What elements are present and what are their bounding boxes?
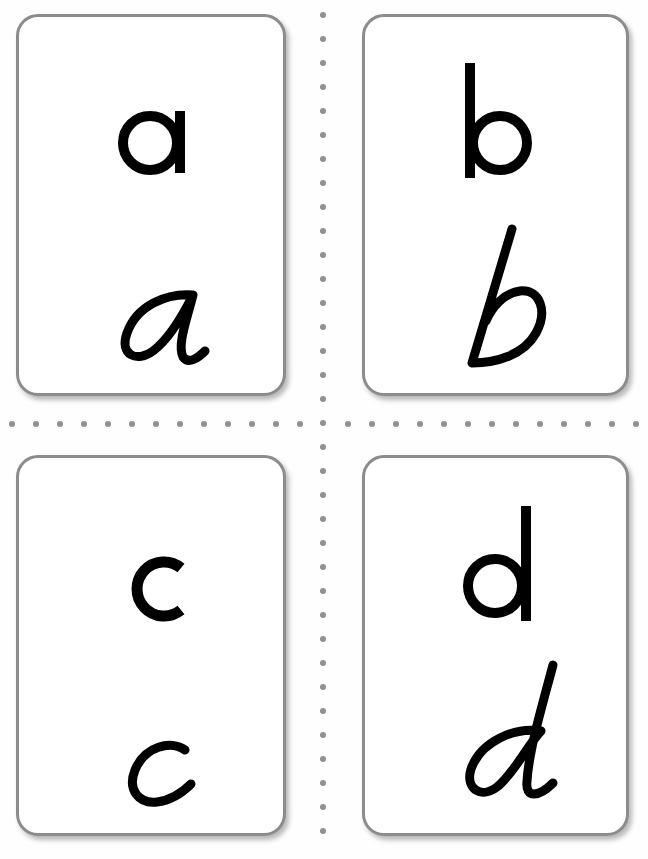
cut-guide-dot-horizontal bbox=[9, 421, 15, 427]
flash-card-c: c c bbox=[16, 455, 286, 836]
flash-card-d: d d bbox=[362, 455, 629, 836]
cut-guide-dot-vertical bbox=[320, 468, 326, 474]
cut-guide-dot-vertical bbox=[320, 420, 326, 426]
cut-guide-dot-vertical bbox=[320, 252, 326, 258]
cut-guide-dot-vertical bbox=[320, 540, 326, 546]
cut-guide-dot-vertical bbox=[320, 84, 326, 90]
cut-guide-dot-horizontal bbox=[393, 421, 399, 427]
cut-guide-dot-vertical bbox=[320, 804, 326, 810]
cut-guide-dot-vertical bbox=[320, 612, 326, 618]
cut-guide-dot-vertical bbox=[320, 372, 326, 378]
cursive-letter-c: c bbox=[119, 736, 209, 816]
cut-guide-dot-horizontal bbox=[465, 421, 471, 427]
cut-guide-dot-horizontal bbox=[609, 421, 615, 427]
cut-guide-dot-horizontal bbox=[57, 421, 63, 427]
print-letter-d: d bbox=[455, 494, 545, 624]
cut-guide-dot-vertical bbox=[320, 396, 326, 402]
print-letter-a: a bbox=[114, 97, 194, 187]
cut-guide-dot-vertical bbox=[320, 276, 326, 282]
cut-guide-dot-vertical bbox=[320, 60, 326, 66]
cut-guide-dot-vertical bbox=[320, 204, 326, 210]
cut-guide-dot-horizontal bbox=[177, 421, 183, 427]
cut-guide-dot-horizontal bbox=[33, 421, 39, 427]
cut-guide-dot-horizontal bbox=[201, 421, 207, 427]
cut-guide-dot-vertical bbox=[320, 36, 326, 42]
flash-card-sheet: a a b b c c d bbox=[0, 0, 648, 859]
cut-guide-dot-vertical bbox=[320, 660, 326, 666]
cut-guide-dot-horizontal bbox=[489, 421, 495, 427]
cut-guide-dot-horizontal bbox=[369, 421, 375, 427]
cut-guide-dot-vertical bbox=[320, 636, 326, 642]
cut-guide-dot-horizontal bbox=[81, 421, 87, 427]
cut-guide-dot-vertical bbox=[320, 708, 326, 714]
flash-card-a: a a bbox=[16, 14, 286, 396]
cut-guide-dot-horizontal bbox=[105, 421, 111, 427]
print-letter-b: b bbox=[460, 53, 540, 183]
cut-guide-dot-vertical bbox=[320, 684, 326, 690]
cut-guide-dot-horizontal bbox=[297, 421, 303, 427]
cut-guide-dot-horizontal bbox=[249, 421, 255, 427]
cut-guide-dot-horizontal bbox=[417, 421, 423, 427]
print-letter-c: c bbox=[119, 548, 199, 628]
cut-guide-dot-vertical bbox=[320, 324, 326, 330]
cut-guide-dot-vertical bbox=[320, 588, 326, 594]
cut-guide-dot-horizontal bbox=[441, 421, 447, 427]
cut-guide-dot-vertical bbox=[320, 780, 326, 786]
cut-guide-dot-vertical bbox=[320, 228, 326, 234]
cut-guide-dot-horizontal bbox=[513, 421, 519, 427]
cut-guide-dot-horizontal bbox=[129, 421, 135, 427]
cut-guide-dot-horizontal bbox=[225, 421, 231, 427]
cut-guide-dot-vertical bbox=[320, 564, 326, 570]
cut-guide-dot-horizontal bbox=[537, 421, 543, 427]
cursive-letter-b: b bbox=[450, 217, 560, 377]
cut-guide-dot-vertical bbox=[320, 12, 326, 18]
cut-guide-dot-horizontal bbox=[153, 421, 159, 427]
cut-guide-dot-vertical bbox=[320, 300, 326, 306]
cursive-letter-a: a bbox=[107, 275, 217, 375]
cut-guide-dot-vertical bbox=[320, 180, 326, 186]
cut-guide-dot-horizontal bbox=[585, 421, 591, 427]
cut-guide-dot-vertical bbox=[320, 492, 326, 498]
flash-card-b: b b bbox=[362, 14, 629, 396]
cut-guide-dot-horizontal bbox=[345, 421, 351, 427]
cut-guide-dot-vertical bbox=[320, 732, 326, 738]
cut-guide-dot-vertical bbox=[320, 132, 326, 138]
cut-guide-dot-vertical bbox=[320, 444, 326, 450]
cursive-letter-d: d bbox=[445, 653, 575, 813]
cut-guide-dot-vertical bbox=[320, 828, 326, 834]
cut-guide-dot-vertical bbox=[320, 756, 326, 762]
cut-guide-dot-horizontal bbox=[273, 421, 279, 427]
cut-guide-dot-vertical bbox=[320, 156, 326, 162]
cut-guide-dot-horizontal bbox=[633, 421, 639, 427]
cut-guide-dot-vertical bbox=[320, 108, 326, 114]
cut-guide-dot-vertical bbox=[320, 516, 326, 522]
cut-guide-dot-vertical bbox=[320, 348, 326, 354]
cut-guide-dot-horizontal bbox=[561, 421, 567, 427]
